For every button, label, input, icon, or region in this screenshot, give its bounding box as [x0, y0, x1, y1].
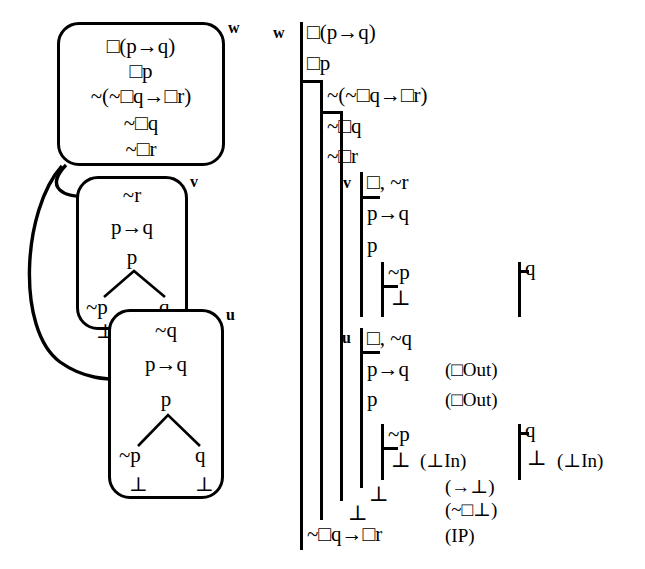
world-box-v: ~r p→q p ~p q ⊥ [76, 176, 188, 330]
proof-line-l16: ⊥ [391, 450, 411, 471]
proof-line-l15: ~p [388, 424, 410, 445]
world-box-w: □(p→q) □p ~(~□q→□r) ~□q ~□r [57, 22, 225, 166]
proof-line-l8: p [367, 235, 378, 256]
proof-justification-l19: (→⊥) [445, 477, 495, 496]
world-u-closure-1: ⊥ [195, 472, 214, 496]
proof-bar-inner [340, 111, 343, 501]
world-u-branch-left: ~p [119, 443, 141, 468]
world-v-branch-left: ~p [86, 295, 108, 320]
proof-justification-l20: (~□⊥) [445, 500, 497, 519]
fitch-proof: w v u □(p→q) □p ~(~□q→□r) ~□q ~□r [265, 0, 645, 569]
proof-bar-v-negp [381, 262, 384, 317]
proof-line-l1: □(p→q) [307, 22, 376, 43]
proof-bar-outer [300, 22, 303, 550]
proof-world-label-v: v [343, 175, 351, 191]
world-u-closure-0: ⊥ [129, 472, 148, 496]
proof-line-l3: ~(~□q→□r) [327, 85, 428, 106]
world-label-w: w [228, 20, 240, 36]
proof-line-l18: ⊥ [527, 448, 547, 469]
proof-line-l4: ~□q [327, 116, 362, 137]
proof-bar-u-negp [381, 424, 384, 480]
proof-justification-l13: (□Out) [445, 360, 498, 379]
proof-line-l19: ⊥ [369, 484, 389, 505]
proof-line-l2: □p [307, 53, 330, 74]
proof-world-label-u: u [342, 330, 351, 346]
world-label-v: v [190, 174, 198, 190]
proof-line-l20: ⊥ [348, 503, 368, 524]
proof-line-l13: p→q [367, 359, 409, 380]
world-w-formula-4: ~□r [60, 139, 222, 160]
proof-justification-l18: (⊥In) [557, 451, 603, 470]
proof-line-l17: q [525, 420, 536, 441]
world-w-formula-3: ~□q [60, 113, 222, 134]
world-w-formula-1: □p [60, 61, 222, 82]
proof-line-l7: p→q [367, 203, 409, 224]
world-u-branch-right: q [195, 443, 206, 468]
proof-assumption-rule-u [360, 351, 380, 354]
proof-line-l14: p [367, 389, 378, 410]
world-w-formula-2: ~(~□q→□r) [60, 86, 222, 107]
proof-justification-l14: (□Out) [445, 390, 498, 409]
proof-line-l21: ~□q→□r [307, 524, 382, 545]
proof-line-l11: q [525, 258, 536, 279]
proof-line-l6: □, ~r [367, 172, 409, 193]
proof-justification-l16: (⊥In) [420, 451, 466, 470]
proof-line-l10: ⊥ [391, 288, 411, 309]
proof-line-l5: ~□r [327, 146, 358, 167]
proof-justification-l21: (IP) [445, 526, 475, 545]
proof-bar-ip [320, 80, 323, 520]
world-box-u: ~q p→q p ~p q ⊥ ⊥ [108, 309, 224, 499]
world-w-formula-0: □(p→q) [60, 36, 222, 57]
figure-canvas: □(p→q) □p ~(~□q→□r) ~□q ~□r w ~r p→q p ~… [0, 0, 645, 569]
world-label-u: u [226, 307, 235, 323]
proof-assumption-rule-v [360, 196, 380, 199]
proof-bar-v [360, 172, 363, 317]
proof-line-l12: □, ~q [367, 328, 412, 349]
proof-world-label-w: w [273, 25, 285, 41]
proof-line-l9: ~p [388, 262, 410, 283]
